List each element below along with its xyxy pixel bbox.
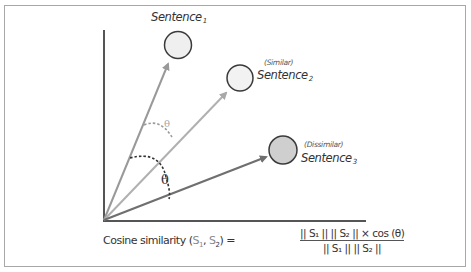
- similar-tag: (Similar): [264, 58, 293, 67]
- sentence2-label: Sentence2: [257, 68, 313, 83]
- vector-2: [104, 93, 226, 220]
- theta-label-light: θ: [164, 118, 170, 129]
- formula-fraction: || S₁ || || S₂ || × cos (θ) || S₁ || || …: [300, 227, 404, 254]
- formula-lhs: Cosine similarity (S1, S2) =: [103, 234, 235, 249]
- formula-numerator: || S₁ || || S₂ || × cos (θ): [300, 227, 404, 240]
- fraction-bar: [300, 240, 404, 241]
- vector-1: [104, 64, 168, 220]
- sentence3-label: Sentence3: [301, 151, 357, 166]
- dissimilar-tag: (Dissimilar): [304, 140, 343, 149]
- sentence3-node: [269, 136, 297, 164]
- sentence2-node: [227, 65, 253, 91]
- formula-denominator: || S₁ || || S₂ ||: [300, 242, 404, 254]
- sentence1-node: [165, 32, 192, 59]
- sentence1-label: Sentence1: [151, 10, 207, 25]
- theta-label-dark: θ: [161, 172, 169, 187]
- vector-3: [104, 157, 266, 220]
